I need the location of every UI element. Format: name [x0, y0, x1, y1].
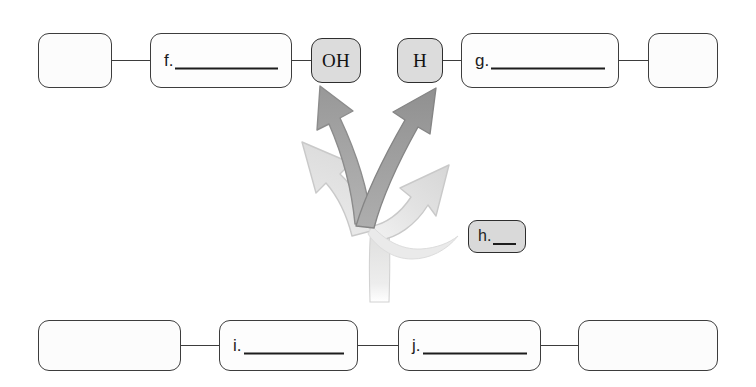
- bottom-answer-box-i[interactable]: i.: [219, 320, 358, 371]
- connector-top-2: [292, 60, 311, 61]
- bottom-blank-right-box[interactable]: [578, 320, 718, 371]
- chip-oh[interactable]: OH: [311, 38, 361, 83]
- answer-line-h: h.: [478, 228, 516, 246]
- top-blank-left-box[interactable]: [38, 33, 112, 88]
- connector-top-3: [443, 60, 461, 61]
- answer-letter-i: i.: [233, 336, 242, 355]
- answer-letter-h: h.: [478, 228, 491, 246]
- top-blank-right-box[interactable]: [648, 33, 718, 88]
- connector-top-4: [619, 60, 648, 61]
- answer-rule-h[interactable]: [493, 243, 516, 245]
- connector-top-1: [112, 60, 150, 61]
- answer-letter-g: g.: [475, 51, 489, 70]
- connector-bottom-3: [541, 345, 578, 346]
- chip-oh-label: OH: [322, 50, 350, 72]
- answer-rule-f[interactable]: [175, 67, 278, 69]
- answer-rule-i[interactable]: [244, 352, 345, 354]
- answer-letter-j: j.: [412, 336, 421, 355]
- answer-line-g: g.: [475, 51, 605, 70]
- arrow-trunk: [369, 228, 389, 302]
- arrow-branch-up-right-light: [372, 165, 449, 240]
- answer-letter-f: f.: [164, 51, 173, 70]
- arrow-branch-up-h-dark: [356, 88, 436, 228]
- worksheet-canvas: f. OH H g.: [0, 0, 756, 387]
- top-answer-box-f[interactable]: f.: [150, 33, 292, 88]
- top-answer-box-g[interactable]: g.: [461, 33, 619, 88]
- chip-h[interactable]: H: [397, 38, 443, 83]
- answer-line-i: i.: [233, 336, 344, 355]
- connector-bottom-1: [181, 345, 219, 346]
- connector-bottom-2: [358, 345, 398, 346]
- answer-rule-j[interactable]: [423, 352, 528, 354]
- answer-rule-g[interactable]: [491, 67, 605, 69]
- chip-h-label: H: [413, 50, 427, 72]
- answer-line-j: j.: [412, 336, 527, 355]
- middle-answer-chip-h[interactable]: h.: [468, 220, 526, 253]
- bottom-answer-box-j[interactable]: j.: [398, 320, 541, 371]
- arrow-branch-up-right-light-tail: [368, 226, 458, 259]
- arrow-branch-up-left-light: [302, 142, 371, 236]
- bottom-blank-left-box[interactable]: [38, 320, 181, 371]
- arrow-branch-up-oh-dark: [317, 86, 372, 224]
- answer-line-f: f.: [164, 51, 278, 70]
